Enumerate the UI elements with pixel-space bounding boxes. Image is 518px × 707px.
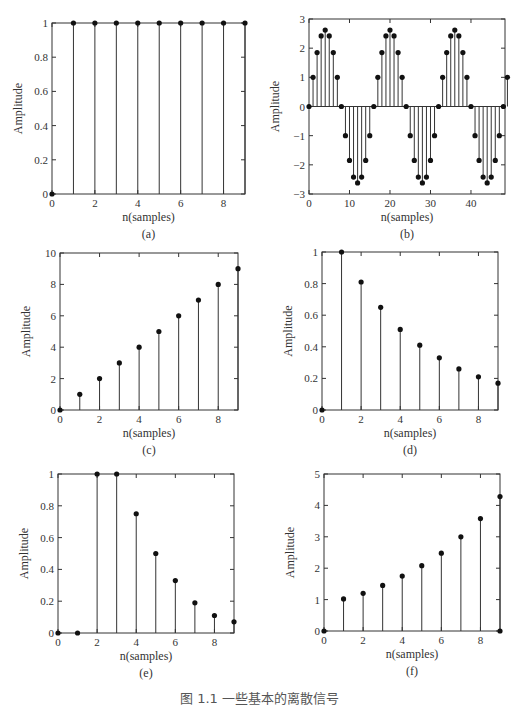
y-tick-label: 1 <box>313 246 319 258</box>
data-point <box>117 360 122 365</box>
data-point <box>137 345 142 350</box>
data-point <box>75 630 80 635</box>
data-point <box>216 282 221 287</box>
panel-label: (d) <box>403 443 417 457</box>
data-point <box>339 249 344 254</box>
y-tick-label: 8 <box>51 278 57 290</box>
x-tick-label: 8 <box>221 197 227 209</box>
panel-label: (e) <box>139 666 152 680</box>
data-point <box>400 75 405 80</box>
x-tick-label: 4 <box>136 413 142 425</box>
y-tick-label: 0 <box>43 188 49 200</box>
y-tick-label: 2 <box>315 562 321 574</box>
data-point <box>371 104 376 109</box>
y-tick-label: 0.8 <box>304 278 318 290</box>
y-axis-label: Amplitude <box>283 527 297 578</box>
data-point <box>378 305 383 310</box>
x-tick-label: 4 <box>133 636 139 648</box>
y-tick-label: 1 <box>43 17 49 29</box>
stem-plot-d: 00.20.40.60.8102468n(samples)Amplitude(d… <box>281 246 501 457</box>
y-tick-label: 4 <box>315 499 321 511</box>
y-tick-label: 1 <box>49 468 55 480</box>
data-point <box>452 27 457 32</box>
data-point <box>347 158 352 163</box>
data-point <box>196 298 201 303</box>
data-point <box>335 75 340 80</box>
panel-label: (c) <box>142 443 155 457</box>
data-point <box>476 158 481 163</box>
data-point <box>97 376 102 381</box>
data-point <box>359 174 364 179</box>
x-tick-label: 6 <box>176 413 182 425</box>
data-point <box>77 392 82 397</box>
data-point <box>319 33 324 38</box>
x-tick-label: 6 <box>437 413 443 425</box>
y-tick-label: 0.6 <box>34 85 48 97</box>
x-tick-label: 2 <box>360 634 366 646</box>
data-point <box>192 600 197 605</box>
y-tick-label: 0 <box>49 627 55 639</box>
x-tick-label: 4 <box>135 197 141 209</box>
y-tick-label: 0.8 <box>40 500 54 512</box>
x-tick-label: 0 <box>49 197 55 209</box>
data-point <box>416 174 421 179</box>
data-point <box>497 494 502 499</box>
y-tick-label: 0 <box>313 404 319 416</box>
y-tick-label: 10 <box>45 247 57 259</box>
data-point <box>437 355 442 360</box>
y-axis-label: Amplitude <box>268 81 282 132</box>
data-point <box>327 33 332 38</box>
panel-label: (a) <box>142 227 155 241</box>
data-point <box>363 158 368 163</box>
data-point <box>408 133 413 138</box>
data-point <box>55 630 60 635</box>
stem-plot-c: 024681002468n(samples)Amplitude(c) <box>19 247 241 457</box>
y-tick-label: 1 <box>300 71 306 83</box>
x-tick-label: 8 <box>476 413 482 425</box>
stem-plot-e: 00.20.40.60.8102468n(samples)Amplitude(e… <box>17 468 237 680</box>
data-point <box>458 534 463 539</box>
data-point <box>478 516 483 521</box>
data-point <box>173 578 178 583</box>
data-point <box>221 20 226 25</box>
data-point <box>383 33 388 38</box>
data-point <box>341 596 346 601</box>
data-point <box>367 133 372 138</box>
x-tick-label: 4 <box>399 634 405 646</box>
data-point <box>497 133 502 138</box>
x-tick-label: 2 <box>358 413 364 425</box>
axes-frame <box>52 23 245 194</box>
y-tick-label: 1 <box>315 594 321 606</box>
data-point <box>468 104 473 109</box>
figure-caption: 图 1.1 一些基本的离散信号 <box>180 688 339 707</box>
y-tick-label: 0 <box>300 101 306 113</box>
data-point <box>493 158 498 163</box>
data-point <box>380 583 385 588</box>
data-point <box>92 20 97 25</box>
data-point <box>476 374 481 379</box>
y-tick-label: 2 <box>51 373 57 385</box>
data-point <box>178 20 183 25</box>
y-tick-label: 0.2 <box>34 154 48 166</box>
y-axis-label: Amplitude <box>281 305 295 356</box>
data-point <box>419 563 424 568</box>
y-tick-label: 0.4 <box>34 120 48 132</box>
data-point <box>391 33 396 38</box>
x-tick-label: 8 <box>215 413 221 425</box>
data-point <box>114 471 119 476</box>
data-point <box>428 158 433 163</box>
data-point <box>114 20 119 25</box>
data-point <box>343 133 348 138</box>
data-point <box>134 511 139 516</box>
stem-plot-a: 00.20.40.60.8102468n(samples)Amplitude(a… <box>11 17 248 241</box>
axes-frame <box>60 253 238 410</box>
data-point <box>412 158 417 163</box>
x-axis-label: n(samples) <box>122 210 175 224</box>
y-tick-label: 6 <box>51 310 57 322</box>
y-tick-label: 2 <box>300 42 306 54</box>
data-point <box>331 50 336 55</box>
data-point <box>440 75 445 80</box>
data-point <box>460 50 465 55</box>
data-point <box>456 33 461 38</box>
